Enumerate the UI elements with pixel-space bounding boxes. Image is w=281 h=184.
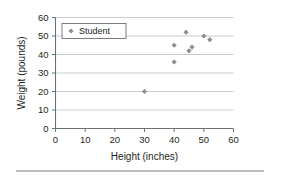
data-point xyxy=(207,37,212,42)
x-tick-label-30: 30 xyxy=(139,134,150,145)
y-tick-label-60: 60 xyxy=(38,12,49,23)
x-axis-ticks: 0102030405060 xyxy=(53,129,239,145)
chart-canvas: 0102030405060 0102030405060 Height (inch… xyxy=(0,0,281,184)
data-point xyxy=(183,30,188,35)
x-tick-label-20: 20 xyxy=(110,134,121,145)
y-tick-label-0: 0 xyxy=(43,123,48,134)
y-axis-title: Weight (pounds) xyxy=(16,36,27,109)
data-point xyxy=(142,89,147,94)
x-tick-label-0: 0 xyxy=(53,134,58,145)
x-tick-label-40: 40 xyxy=(169,134,180,145)
data-point xyxy=(201,33,206,38)
x-axis-title: Height (inches) xyxy=(111,151,178,162)
y-tick-label-20: 20 xyxy=(38,86,49,97)
y-tick-label-40: 40 xyxy=(38,49,49,60)
data-point xyxy=(189,45,194,50)
x-tick-label-10: 10 xyxy=(80,134,91,145)
footer-rule xyxy=(16,170,264,172)
data-point xyxy=(172,43,177,48)
chart-legend: Student xyxy=(62,24,126,39)
y-axis-ticks: 0102030405060 xyxy=(38,12,56,134)
y-tick-label-50: 50 xyxy=(38,30,49,41)
legend-label-student: Student xyxy=(79,26,111,36)
y-tick-label-30: 30 xyxy=(38,67,49,78)
data-point xyxy=(172,59,177,64)
data-point-group xyxy=(142,30,212,94)
y-tick-label-10: 10 xyxy=(38,104,49,115)
scatter-chart-figure: 0102030405060 0102030405060 Height (inch… xyxy=(0,0,281,184)
x-tick-label-60: 60 xyxy=(228,134,239,145)
data-point xyxy=(186,48,191,53)
x-tick-label-50: 50 xyxy=(199,134,210,145)
